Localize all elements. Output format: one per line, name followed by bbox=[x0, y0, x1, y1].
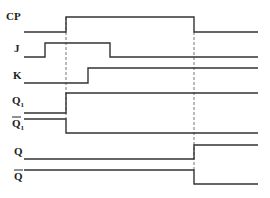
label-cp: CP bbox=[6, 10, 21, 22]
label-q-bar: Q bbox=[14, 170, 23, 182]
label-q1-bar-subscript: 1 bbox=[21, 124, 25, 132]
label-j: J bbox=[14, 42, 20, 54]
label-q: Q bbox=[14, 145, 23, 157]
label-k: K bbox=[13, 69, 22, 81]
timing-diagram: CP J K Q1 Q1 Q Q bbox=[0, 0, 270, 198]
background bbox=[0, 0, 270, 198]
label-q1-subscript: 1 bbox=[21, 101, 25, 109]
